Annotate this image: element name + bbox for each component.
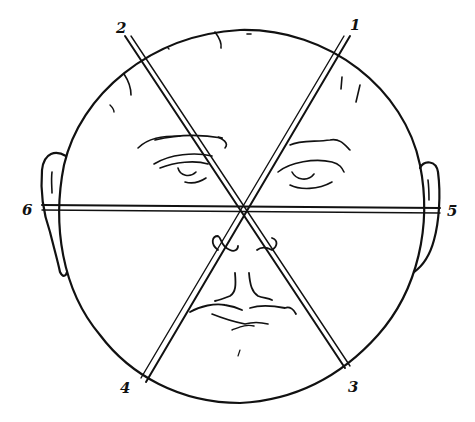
mouth	[190, 304, 296, 356]
right-eye	[278, 140, 350, 189]
label-4: 4	[120, 379, 130, 397]
label-2: 2	[115, 19, 126, 37]
label-1: 1	[350, 16, 360, 34]
label-5: 5	[447, 202, 457, 220]
axis-2-3	[125, 36, 350, 368]
label-6: 6	[22, 201, 33, 219]
head-outline	[59, 30, 424, 403]
label-3: 3	[348, 378, 358, 396]
nose	[213, 236, 277, 301]
face-axes-diagram: 1 2 3 4 5 6	[0, 0, 475, 422]
